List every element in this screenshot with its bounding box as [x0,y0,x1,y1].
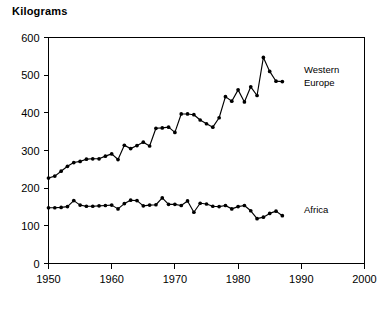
data-point-marker [268,70,272,74]
data-point-marker [179,112,183,116]
data-point-marker [53,174,57,178]
data-point-marker [211,204,215,208]
data-point-marker [268,212,272,216]
data-point-marker [186,112,190,116]
y-tick-label: 400 [21,107,39,119]
data-point-marker [167,125,171,129]
data-point-marker [280,80,284,84]
data-point-marker [198,201,202,205]
data-point-marker [205,122,209,126]
series-line-africa [49,198,283,219]
x-tick-label: 1970 [163,273,187,285]
data-point-marker [72,199,76,203]
data-point-marker [122,143,126,147]
data-point-marker [116,207,120,211]
data-point-marker [59,169,63,173]
data-point-marker [217,205,221,209]
data-point-marker [59,206,63,210]
y-tick-label: 100 [21,220,39,232]
data-point-marker [135,199,139,203]
data-point-marker [53,206,57,210]
data-point-marker [116,158,120,162]
series-annotation-group: WesternEuropeAfrica [304,64,339,215]
data-point-marker [173,131,177,135]
y-axis-ticks [44,38,49,264]
data-point-marker [211,125,215,129]
data-point-marker [160,126,164,130]
data-point-marker [280,214,284,218]
data-point-marker [249,85,253,89]
data-point-marker [154,126,158,130]
data-point-marker [217,116,221,120]
data-point-marker [85,204,89,208]
data-point-marker [205,202,209,206]
data-point-marker [274,79,278,83]
data-point-marker [104,204,108,208]
data-point-marker [97,204,101,208]
data-point-marker [179,204,183,208]
data-point-marker [104,154,108,158]
data-point-marker [97,157,101,161]
data-point-marker [230,99,234,103]
data-point-marker [129,198,133,202]
data-point-marker [236,205,240,209]
data-point-marker [255,94,259,98]
data-point-marker [243,100,247,104]
data-point-marker [249,209,253,213]
data-point-marker [135,144,139,148]
data-point-marker [122,202,126,206]
data-point-marker [160,196,164,200]
y-tick-label: 600 [21,32,39,44]
data-point-marker [129,147,133,151]
data-point-marker [224,204,228,208]
y-axis-tick-labels: 0100200300400500600 [21,32,39,270]
y-tick-label: 500 [21,69,39,81]
series-label-africa: Africa [304,204,329,215]
x-axis-ticks [49,264,365,269]
x-axis-tick-labels: 195019601970198019902000 [36,273,376,285]
data-point-marker [243,204,247,208]
x-tick-label: 1950 [36,273,60,285]
data-series-group [49,57,283,218]
x-tick-label: 1980 [226,273,250,285]
data-point-marker [236,88,240,92]
plot-area: 0100200300400500600 19501960197019801990… [0,0,389,310]
data-point-marker [167,203,171,207]
data-point-marker [192,113,196,117]
x-tick-label: 1960 [99,273,123,285]
x-tick-label: 1990 [289,273,313,285]
y-tick-label: 200 [21,182,39,194]
data-point-marker [72,161,76,165]
data-point-marker [110,203,114,207]
data-point-marker [141,140,145,144]
data-point-marker [192,210,196,214]
data-point-marker [91,204,95,208]
data-point-marker [148,144,152,148]
data-point-marker [91,157,95,161]
data-point-marker [186,199,190,203]
kilograms-line-chart: Kilograms 0100200300400500600 1950196019… [0,0,389,310]
x-tick-label: 2000 [352,273,376,285]
data-point-marker [262,215,266,219]
data-point-marker [47,176,51,180]
data-point-marker [141,204,145,208]
y-tick-label: 300 [21,145,39,157]
data-point-marker [78,203,82,207]
data-point-marker [47,206,51,210]
data-point-marker [274,209,278,213]
data-marker-group [47,56,285,221]
y-tick-label: 0 [33,258,39,270]
series-label-western-europe: WesternEurope [304,64,339,88]
data-point-marker [78,160,82,164]
data-point-marker [110,152,114,156]
data-point-marker [154,203,158,207]
data-point-marker [66,205,70,209]
data-point-marker [66,164,70,168]
data-point-marker [262,56,266,60]
data-point-marker [148,203,152,207]
data-point-marker [255,217,259,221]
data-point-marker [224,95,228,99]
data-point-marker [230,207,234,211]
series-line-western-europe [49,57,283,178]
data-point-marker [173,203,177,207]
